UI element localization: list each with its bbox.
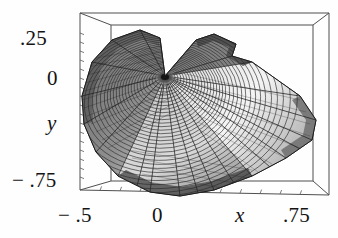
x-axis-tick-label-minus0.5: − .5 [58,205,92,226]
y-axis-name: y [47,113,57,134]
spiral-surface [21,0,316,217]
box-edge-top-right-diag [313,13,329,25]
plot-figure: .25 0 y − .75 − .5 0 x .75 [0,0,338,238]
x-axis-tick-label-0.75: .75 [283,205,310,226]
y-axis-tick-label-0: 0 [47,68,58,89]
box-edge-bottom-left-diag [80,181,111,190]
x-axis-name: x [235,205,245,226]
box-edge-top-left-diag [80,13,111,25]
y-axis-tick-label-0.25: .25 [20,28,47,49]
box-edge-bottom-right-diag [313,181,329,195]
x-axis-tick-label-0: 0 [152,205,163,226]
y-axis-tick-label-minus0.75: − .75 [12,170,56,191]
